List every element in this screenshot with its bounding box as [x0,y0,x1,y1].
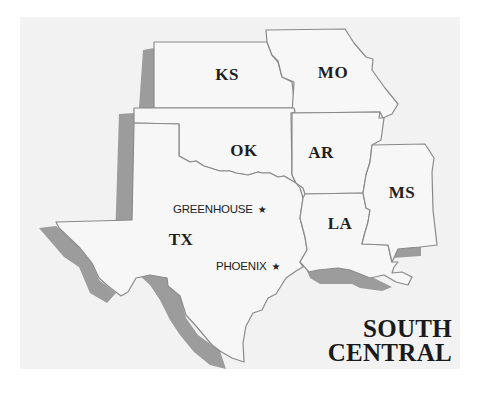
star-icon: ★ [258,204,267,215]
region-title-line-2: CENTRAL [328,341,452,365]
region-title: SOUTH CENTRAL [328,317,452,365]
south-central-map: KS MO OK AR MS LA TX GREENHOUSE★ PHOENIX… [0,0,480,398]
state-label-ar: AR [308,143,334,163]
state-label-mo: MO [318,63,348,83]
state-label-ms: MS [389,183,416,203]
star-icon: ★ [271,261,280,272]
state-shape-ms [362,144,437,262]
state-label-la: LA [328,214,353,234]
city-marker-greenhouse: GREENHOUSE★ [173,203,267,215]
state-label-tx: TX [169,230,194,250]
state-label-ok: OK [230,141,257,161]
city-name-phoenix: PHOENIX [216,260,266,272]
region-title-line-1: SOUTH [328,317,452,341]
state-label-ks: KS [215,65,239,85]
city-marker-phoenix: PHOENIX★ [216,260,280,272]
city-name-greenhouse: GREENHOUSE [173,203,253,215]
